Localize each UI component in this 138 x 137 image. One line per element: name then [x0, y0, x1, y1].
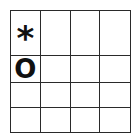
cell-0-2[interactable] [71, 11, 101, 56]
cell-0-0[interactable]: * [11, 11, 41, 56]
game-board: * O [10, 10, 131, 133]
cell-3-2[interactable] [71, 108, 101, 133]
cell-0-3[interactable] [100, 11, 130, 56]
cell-1-1[interactable] [41, 56, 71, 83]
o-mark: O [14, 56, 36, 82]
cell-3-0[interactable] [11, 108, 41, 133]
cell-2-2[interactable] [71, 83, 101, 108]
cell-1-2[interactable] [71, 56, 101, 83]
cell-3-3[interactable] [100, 108, 130, 133]
cell-2-3[interactable] [100, 83, 130, 108]
cell-1-0[interactable]: O [11, 56, 41, 83]
star-mark: * [16, 21, 34, 55]
cell-3-1[interactable] [41, 108, 71, 133]
cell-2-0[interactable] [11, 83, 41, 108]
cell-1-3[interactable] [100, 56, 130, 83]
cell-2-1[interactable] [41, 83, 71, 108]
cell-0-1[interactable] [41, 11, 71, 56]
